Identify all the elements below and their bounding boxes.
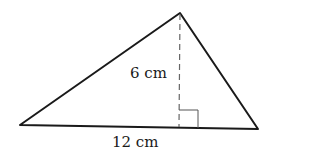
base-label: 12 cm — [112, 135, 158, 150]
right-angle-marker — [179, 110, 198, 128]
height-label: 6 cm — [130, 66, 167, 81]
